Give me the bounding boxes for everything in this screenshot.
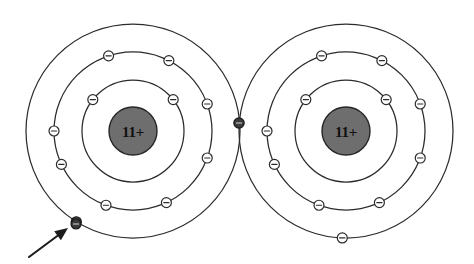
annotation-arrow-head (54, 228, 68, 240)
annotation-arrow-shaft (29, 236, 58, 257)
shared-electron-group (234, 118, 244, 128)
annotation-arrow-group (29, 228, 68, 257)
highlighted-electron-group (71, 219, 81, 229)
left-atom: 11+ (26, 24, 240, 238)
left-atom-nucleus-label: 11+ (122, 124, 144, 140)
bohr-model-diagram: 11+ 11+ (0, 0, 474, 264)
right-atom-nucleus-label: 11+ (335, 124, 357, 140)
right-atom: 11+ (239, 24, 453, 243)
diagram-canvas: 11+ 11+ (0, 0, 474, 264)
